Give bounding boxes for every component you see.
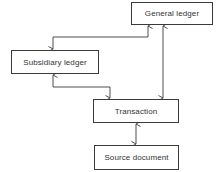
edge-subsidiary-transaction — [53, 75, 110, 98]
node-label: Subsidiary ledger — [23, 58, 87, 67]
node-label: Transaction — [115, 107, 158, 116]
node-transaction: Transaction — [93, 99, 179, 123]
node-general-ledger: General ledger — [131, 2, 213, 25]
node-subsidiary-ledger: Subsidiary ledger — [11, 50, 99, 74]
node-source-document: Source document — [94, 145, 179, 170]
edge-general-subsidiary — [53, 26, 148, 49]
node-label: Source document — [104, 153, 168, 162]
node-label: General ledger — [145, 9, 199, 18]
